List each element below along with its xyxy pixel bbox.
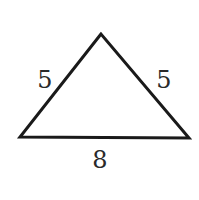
base-label: 8: [92, 146, 107, 174]
triangle-svg: 5 5 8: [0, 0, 199, 200]
right-side-label: 5: [156, 66, 171, 94]
triangle-diagram: 5 5 8: [0, 0, 199, 200]
left-side-label: 5: [37, 66, 52, 94]
